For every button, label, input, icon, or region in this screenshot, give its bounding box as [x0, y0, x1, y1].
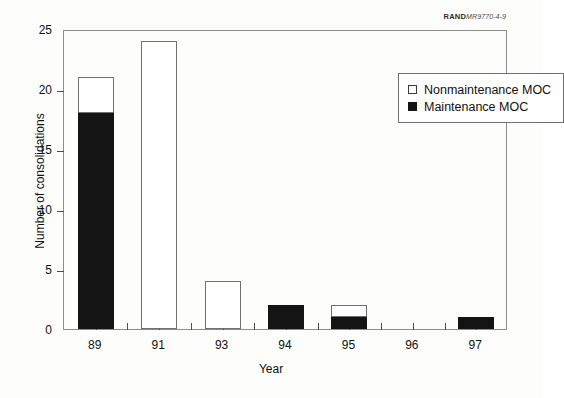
x-axis-title: Year	[0, 362, 542, 376]
bar-segment-maintenance-89	[78, 113, 114, 329]
y-tick-label: 20	[39, 83, 52, 97]
bar-group-97	[458, 317, 494, 329]
bar-group-94	[268, 305, 304, 329]
rand-brand-text: RAND	[444, 12, 466, 21]
x-tick-mark-minor	[413, 323, 414, 330]
x-tick-label-93: 93	[215, 338, 228, 352]
legend-item-maintenance: Maintenance MOC	[408, 98, 551, 115]
chart-plot-area: Number of consolidations 0510152025 Nonm…	[63, 30, 507, 330]
bar-segment-nonmaintenance-91	[141, 41, 177, 329]
y-tick-mark	[57, 211, 64, 212]
x-tick-mark-boundary	[445, 323, 446, 330]
open-square-icon	[408, 85, 417, 94]
bar-segment-maintenance-94	[268, 305, 304, 329]
bar-group-93	[205, 281, 241, 329]
y-tick-mark	[57, 151, 64, 152]
y-tick-label: 25	[39, 23, 52, 37]
x-tick-mark-boundary	[127, 323, 128, 330]
x-tick-mark-boundary	[318, 323, 319, 330]
x-tick-mark-boundary	[191, 323, 192, 330]
bar-segment-nonmaintenance-93	[205, 281, 241, 329]
rand-report-credit: RANDMR9770-4-9	[444, 12, 506, 21]
bar-segment-maintenance-97	[458, 317, 494, 329]
y-axis-title: Number of consolidations	[33, 31, 47, 331]
bar-group-95	[331, 305, 367, 329]
bar-group-89	[78, 77, 114, 329]
legend-item-nonmaintenance: Nonmaintenance MOC	[408, 81, 551, 98]
y-tick-label: 5	[45, 263, 52, 277]
y-tick-mark	[57, 271, 64, 272]
y-tick-label: 0	[45, 323, 52, 337]
bar-segment-maintenance-95	[331, 317, 367, 329]
x-tick-mark-boundary	[381, 323, 382, 330]
x-tick-label-96: 96	[405, 338, 418, 352]
x-tick-label-91: 91	[151, 338, 164, 352]
x-tick-mark-boundary	[254, 323, 255, 330]
rand-report-code: MR9770-4-9	[466, 13, 506, 20]
x-tick-label-97: 97	[469, 338, 482, 352]
y-tick-label: 15	[39, 143, 52, 157]
chart-legend: Nonmaintenance MOC Maintenance MOC	[398, 73, 564, 123]
x-tick-label-95: 95	[342, 338, 355, 352]
legend-label-nonmaintenance: Nonmaintenance MOC	[424, 83, 551, 97]
x-tick-label-94: 94	[278, 338, 291, 352]
bar-segment-nonmaintenance-89	[78, 77, 114, 113]
bar-segment-nonmaintenance-95	[331, 305, 367, 317]
bar-group-91	[141, 41, 177, 329]
legend-label-maintenance: Maintenance MOC	[424, 100, 528, 114]
filled-square-icon	[408, 102, 417, 111]
y-tick-mark	[57, 91, 64, 92]
y-tick-label: 10	[39, 203, 52, 217]
x-tick-label-89: 89	[88, 338, 101, 352]
